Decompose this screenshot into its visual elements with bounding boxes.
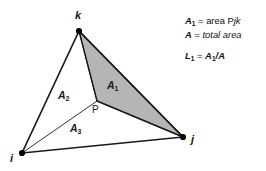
legend-l1-equals: = bbox=[197, 50, 202, 61]
area-label-a2: A2 bbox=[58, 90, 70, 101]
legend-a1-symbol-letter: A bbox=[185, 15, 192, 26]
legend-line-a1-definition: A1 = area Pjk bbox=[185, 15, 265, 29]
legend-a1-symbol-subscript: 1 bbox=[192, 20, 196, 27]
legend-line-a-definition: A = total area bbox=[185, 29, 265, 42]
legend-l1-numerator-letter: A bbox=[205, 50, 212, 61]
legend-a1-symbol: A1 bbox=[185, 15, 195, 26]
area-label-a2-symbol: A bbox=[58, 89, 66, 101]
legend-definitions: A1 = area Pjk A = total area L1 = A1/A bbox=[185, 15, 265, 64]
area-label-a1: A1 bbox=[107, 80, 119, 91]
diagram-figure: k i j P A1 A2 A3 A1 = area Pjk A = total… bbox=[0, 0, 266, 171]
legend-l1-symbol-subscript: 1 bbox=[191, 55, 195, 62]
legend-a1-equals: = bbox=[198, 15, 203, 26]
vertex-dot-k bbox=[76, 28, 82, 34]
point-label-p: P bbox=[92, 105, 99, 115]
legend-a-equals: = bbox=[194, 29, 199, 40]
area-label-a2-subscript: 2 bbox=[66, 95, 70, 102]
legend-a-symbol-letter: A bbox=[185, 29, 192, 40]
vertex-dot-j bbox=[180, 134, 186, 140]
legend-l1-symbol-letter: L bbox=[185, 50, 191, 61]
vertex-label-j: j bbox=[191, 134, 194, 145]
area-label-a3-subscript: 3 bbox=[78, 128, 82, 135]
legend-a1-text: area P bbox=[206, 15, 234, 26]
legend-l1-numerator-subscript: 1 bbox=[212, 55, 216, 62]
vertex-dot-i bbox=[19, 150, 25, 156]
area-label-a1-subscript: 1 bbox=[115, 85, 119, 92]
legend-a-text-italic: total area bbox=[202, 29, 241, 40]
legend-spacer bbox=[185, 41, 265, 50]
legend-a1-text-italic: jk bbox=[234, 15, 241, 26]
legend-line-l1-formula: L1 = A1/A bbox=[185, 50, 265, 64]
legend-l1-numerator: A1 bbox=[205, 50, 215, 61]
legend-l1-denominator: A bbox=[218, 50, 225, 61]
legend-a-symbol: A bbox=[185, 29, 192, 40]
area-label-a3-symbol: A bbox=[70, 122, 78, 134]
area-label-a1-symbol: A bbox=[107, 79, 115, 91]
area-label-a3: A3 bbox=[70, 123, 82, 134]
vertex-label-i: i bbox=[10, 153, 13, 164]
legend-l1-symbol: L1 bbox=[185, 50, 194, 61]
vertex-label-k: k bbox=[75, 10, 81, 21]
